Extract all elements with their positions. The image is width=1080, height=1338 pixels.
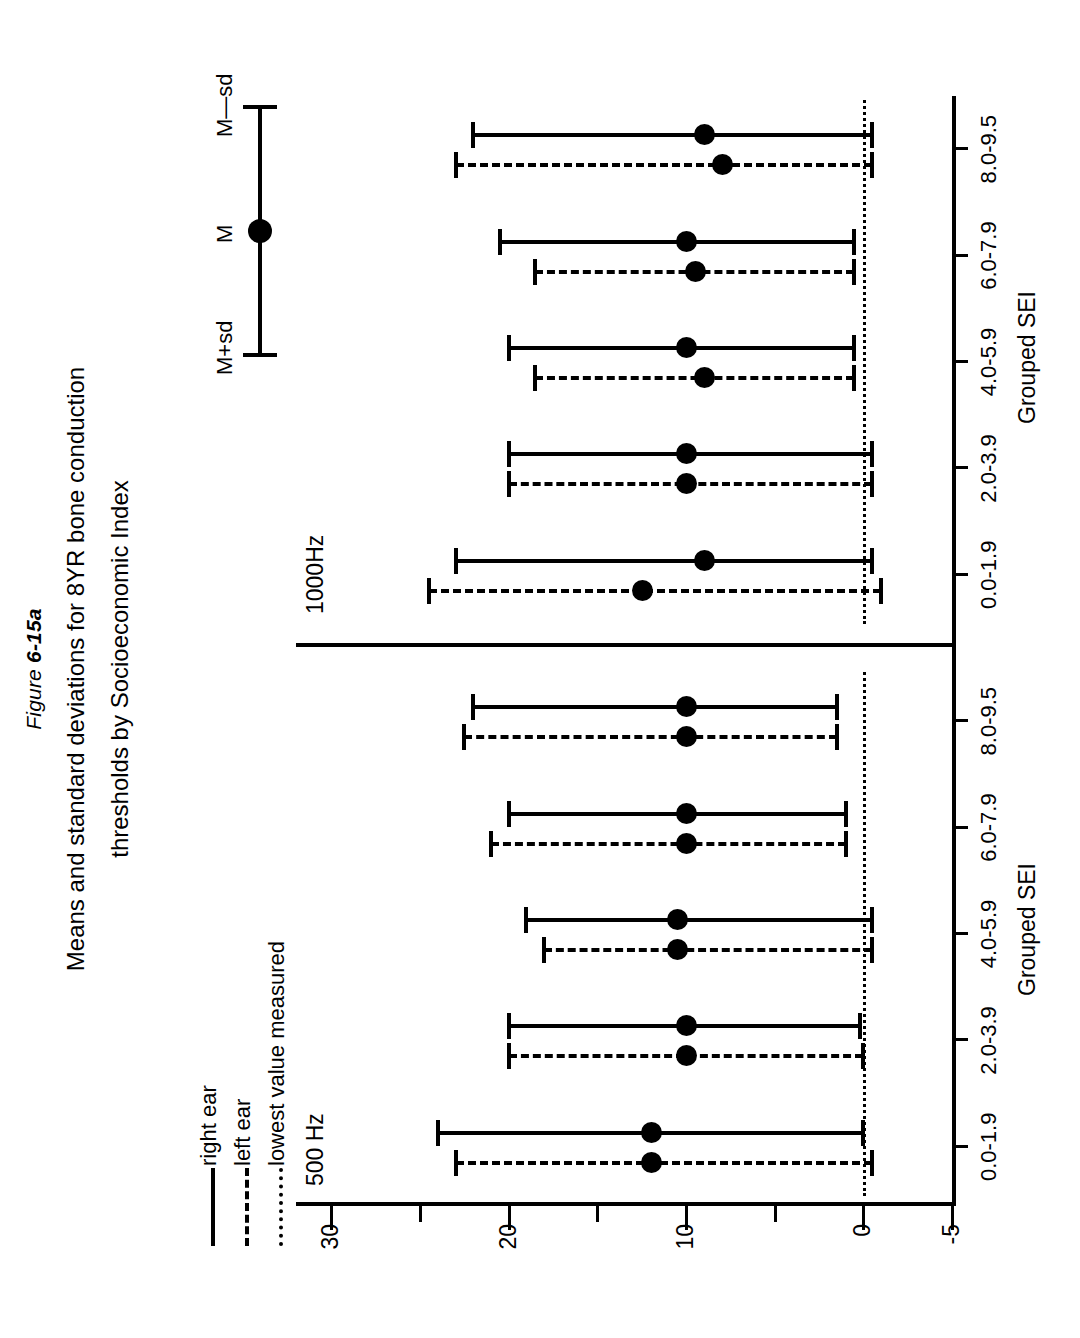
error-bar-cap-upper <box>427 578 431 604</box>
error-bar-left-ear <box>544 948 872 952</box>
error-bar-right-ear <box>473 705 836 709</box>
figure-number-value: 6-15a <box>22 608 45 663</box>
error-bar-cap-lower <box>870 152 874 178</box>
x-axis-tick <box>952 826 968 829</box>
mean-marker <box>676 473 697 494</box>
mean-marker <box>676 443 697 464</box>
legend-label: right ear <box>196 1085 222 1166</box>
x-axis-tick-label: 4.0-5.9 <box>976 879 1002 989</box>
y-axis-minor-tick <box>596 1206 599 1222</box>
x-axis-tick-label: 8.0-9.5 <box>976 666 1002 776</box>
zero-reference-line <box>863 672 866 1196</box>
mean-marker <box>667 909 688 930</box>
error-bar-cap-upper <box>454 152 458 178</box>
legend-item-right-ear: right ear <box>196 906 230 1246</box>
error-bar-cap-upper <box>507 1043 511 1069</box>
x-axis-tick <box>952 147 968 150</box>
key-lower-label: M—sd <box>212 73 238 137</box>
x-axis-tick-label: 6.0-7.9 <box>976 201 1002 311</box>
x-axis-tick <box>952 360 968 363</box>
rotated-figure-wrapper: Figure 6-15a Means and standard deviatio… <box>0 0 1080 1338</box>
legend-label: lowest value measured <box>264 941 290 1166</box>
error-bar-cap-lower <box>879 578 883 604</box>
x-axis-tick-label: 2.0-3.9 <box>976 985 1002 1095</box>
error-bar-cap-lower <box>870 907 874 933</box>
error-bar-cap-upper <box>533 365 537 391</box>
x-axis-tick <box>952 573 968 576</box>
mean-marker <box>676 833 697 854</box>
error-bar-cap-upper <box>507 1013 511 1039</box>
y-axis-minor-tick <box>774 1206 777 1222</box>
figure-canvas: Figure 6-15a Means and standard deviatio… <box>0 0 1080 1338</box>
error-bar-cap-lower <box>870 122 874 148</box>
y-axis-tick-label: 20 <box>495 1224 522 1250</box>
error-bar-cap-lower <box>870 548 874 574</box>
x-axis-tick <box>952 932 968 935</box>
error-bar-cap-upper <box>498 229 502 255</box>
legend-dotted-line-icon <box>279 1168 283 1246</box>
error-bar-cap-upper <box>471 694 475 720</box>
error-bar-cap-upper <box>454 1150 458 1176</box>
key-cap-upper <box>243 353 277 357</box>
error-bar-cap-upper <box>533 259 537 285</box>
error-bar-cap-lower <box>870 1150 874 1176</box>
mean-marker <box>676 726 697 747</box>
error-bar-cap-lower <box>835 694 839 720</box>
error-bar-cap-upper <box>507 441 511 467</box>
legend-solid-line-icon <box>211 1168 215 1246</box>
error-bar-cap-upper <box>507 471 511 497</box>
x-axis-tick <box>952 719 968 722</box>
legend-label: left ear <box>230 1099 256 1166</box>
error-bar-cap-lower <box>835 724 839 750</box>
error-bar-left-ear <box>456 1161 873 1165</box>
mean-marker <box>676 1045 697 1066</box>
zero-reference-line <box>863 100 866 624</box>
key-mean-label: M <box>212 225 238 243</box>
x-axis-tick <box>952 466 968 469</box>
error-bar-left-ear <box>491 842 846 846</box>
error-bar-cap-upper <box>436 1120 440 1146</box>
x-axis-tick-label: 8.0-9.5 <box>976 94 1002 204</box>
y-axis-minor-tick <box>419 1206 422 1222</box>
error-bar-cap-lower <box>852 259 856 285</box>
figure-title-line-1: Means and standard deviations for 8YR bo… <box>62 0 90 1338</box>
errorbar-key: M+sd M M—sd <box>176 53 296 383</box>
panel-frequency-label: 500 Hz <box>302 1113 329 1186</box>
error-bar-right-ear <box>473 133 872 137</box>
error-bar-cap-lower <box>870 441 874 467</box>
error-bar-cap-lower <box>870 937 874 963</box>
error-bar-cap-upper <box>542 937 546 963</box>
error-bar-right-ear <box>526 918 872 922</box>
error-bar-cap-lower <box>844 801 848 827</box>
x-axis-tick-label: 4.0-5.9 <box>976 307 1002 417</box>
mean-marker <box>676 696 697 717</box>
figure-number: Figure 6-15a <box>22 0 46 1338</box>
mean-marker <box>694 550 715 571</box>
y-axis-tick-label: -5 <box>938 1224 965 1244</box>
panel-separator <box>296 643 956 647</box>
error-bar-cap-lower <box>852 335 856 361</box>
error-bar-cap-upper <box>454 548 458 574</box>
mean-marker <box>694 124 715 145</box>
error-bar-cap-lower <box>852 229 856 255</box>
x-axis-title: Grouped SEI <box>1014 291 1041 424</box>
x-axis-tick-label: 0.0-1.9 <box>976 520 1002 630</box>
mean-marker <box>641 1122 662 1143</box>
mean-marker <box>712 154 733 175</box>
y-axis-tick-label: 30 <box>317 1224 344 1250</box>
x-axis-tick-label: 2.0-3.9 <box>976 413 1002 523</box>
error-bar-cap-lower <box>861 1043 865 1069</box>
figure-number-prefix: Figure <box>22 663 45 730</box>
error-bar-left-ear <box>429 589 881 593</box>
error-bar-cap-lower <box>858 1013 862 1039</box>
mean-marker <box>667 939 688 960</box>
mean-marker <box>632 580 653 601</box>
error-bar-cap-lower <box>844 831 848 857</box>
error-bar-left-ear <box>464 735 836 739</box>
mean-marker <box>676 803 697 824</box>
panel-frequency-label: 1000Hz <box>302 535 329 614</box>
x-axis-tick <box>952 254 968 257</box>
legend-dashed-line-icon <box>245 1168 249 1246</box>
x-axis-title: Grouped SEI <box>1014 863 1041 996</box>
error-bar-cap-lower <box>861 1120 865 1146</box>
